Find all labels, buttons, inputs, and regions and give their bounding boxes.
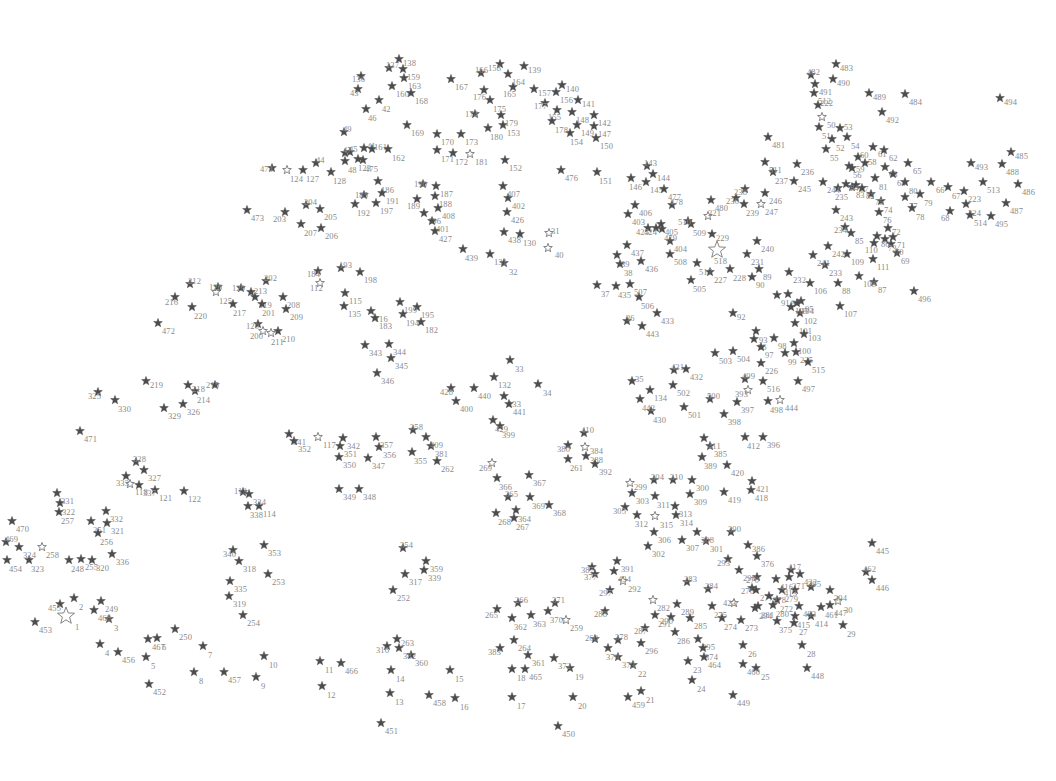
scatter-point-label-216: 216 xyxy=(165,298,178,307)
scatter-point-label-327: 327 xyxy=(148,474,161,483)
scatter-point-label-168: 168 xyxy=(415,97,428,106)
scatter-point-label-181: 181 xyxy=(475,158,488,167)
scatter-point-label-432: 432 xyxy=(690,373,703,382)
scatter-point-label-345: 345 xyxy=(395,362,408,371)
scatter-point-label-180: 180 xyxy=(490,133,503,142)
scatter-point-label-177: 177 xyxy=(534,102,547,111)
scatter-point-label-435: 435 xyxy=(618,291,631,300)
scatter-point-label-199: 199 xyxy=(404,306,417,315)
scatter-point-label-456: 456 xyxy=(122,656,135,665)
scatter-point-label-467: 467 xyxy=(152,643,165,652)
scatter-point-label-228: 228 xyxy=(733,274,746,283)
scatter-point-label-261: 261 xyxy=(570,464,583,473)
scatter-point-label-107: 107 xyxy=(844,310,857,319)
scatter-point-label-146: 146 xyxy=(629,183,642,192)
scatter-point-label-331: 331 xyxy=(61,497,74,506)
scatter-point-label-334: 334 xyxy=(253,498,266,507)
scatter-point-40 xyxy=(542,242,554,254)
scatter-point-label-407: 407 xyxy=(507,190,520,199)
scatter-point-label-10: 10 xyxy=(269,661,278,670)
scatter-point-label-256: 256 xyxy=(100,538,113,547)
scatter-point-label-392: 392 xyxy=(599,468,612,477)
scatter-point-label-318: 318 xyxy=(243,565,256,574)
scatter-point-label-500: 500 xyxy=(707,392,720,401)
scatter-point-label-325: 325 xyxy=(88,392,101,401)
scatter-point-label-19: 19 xyxy=(575,673,584,682)
scatter-point-label-478: 478 xyxy=(670,198,683,207)
scatter-point-label-158: 158 xyxy=(488,64,501,73)
scatter-point-label-411: 411 xyxy=(708,442,721,451)
scatter-point-label-506: 506 xyxy=(641,302,654,311)
scatter-point-label-165: 165 xyxy=(503,90,516,99)
scatter-point-label-330: 330 xyxy=(118,405,131,414)
scatter-point-label-112: 112 xyxy=(310,284,323,293)
scatter-point-label-209: 209 xyxy=(290,313,303,322)
scatter-point-label-436: 436 xyxy=(645,265,658,274)
scatter-point-label-390: 390 xyxy=(728,525,741,534)
scatter-point-label-202: 202 xyxy=(264,274,277,283)
scatter-point-label-192: 192 xyxy=(357,209,370,218)
scatter-point-label-428: 428 xyxy=(440,388,453,397)
scatter-point-label-468: 468 xyxy=(98,614,111,623)
scatter-point-label-438: 438 xyxy=(508,236,521,245)
scatter-point-label-443: 443 xyxy=(646,330,659,339)
scatter-point-label-179: 179 xyxy=(505,119,518,128)
scatter-point-label-193: 193 xyxy=(339,261,352,270)
scatter-point-label-440: 440 xyxy=(478,392,491,401)
scatter-point-label-29: 29 xyxy=(847,630,856,639)
scatter-point-label-71: 71 xyxy=(897,241,906,250)
scatter-point-label-502: 502 xyxy=(677,389,690,398)
scatter-point-label-143: 143 xyxy=(644,159,657,168)
scatter-point-label-349: 349 xyxy=(343,493,356,502)
scatter-point-label-217: 217 xyxy=(233,309,246,318)
scatter-point-label-267: 267 xyxy=(516,523,529,532)
scatter-point-label-31: 31 xyxy=(551,227,560,236)
scatter-point-label-350: 350 xyxy=(343,461,356,470)
scatter-point-label-220: 220 xyxy=(194,312,207,321)
scatter-point-label-7: 7 xyxy=(208,651,212,660)
scatter-point-label-26: 26 xyxy=(748,650,757,659)
scatter-point-label-132: 132 xyxy=(498,381,511,390)
scatter-point-label-36: 36 xyxy=(626,314,635,323)
scatter-point-label-337: 337 xyxy=(143,489,156,498)
scatter-point-label-315: 315 xyxy=(660,521,673,530)
scatter-point-label-355: 355 xyxy=(414,457,427,466)
scatter-point-label-11: 11 xyxy=(325,666,333,675)
scatter-point-label-5: 5 xyxy=(151,662,155,671)
scatter-point-label-425: 425 xyxy=(636,228,649,237)
scatter-point-label-129: 129 xyxy=(232,284,245,293)
scatter-point-label-288: 288 xyxy=(594,610,607,619)
scatter-point-label-232: 232 xyxy=(793,276,806,285)
scatter-point-label-108: 108 xyxy=(863,280,876,289)
scatter-point-label-353: 353 xyxy=(268,549,281,558)
scatter-point-label-291: 291 xyxy=(658,620,671,629)
scatter-point-label-52: 52 xyxy=(836,144,845,153)
scatter-point-label-115: 115 xyxy=(349,297,362,306)
scatter-point-label-81: 81 xyxy=(879,183,888,192)
scatter-point-label-469: 469 xyxy=(5,535,18,544)
scatter-point-label-462: 462 xyxy=(863,565,876,574)
scatter-point-label-370: 370 xyxy=(550,616,563,625)
scatter-point-label-379: 379 xyxy=(606,653,619,662)
scatter-point-label-234: 234 xyxy=(834,226,847,235)
scatter-point-label-442: 442 xyxy=(642,404,655,413)
scatter-point-label-309: 309 xyxy=(694,498,707,507)
scatter-point-label-174: 174 xyxy=(465,110,478,119)
scatter-point-label-231: 231 xyxy=(751,258,764,267)
scatter-point-label-18: 18 xyxy=(517,674,526,683)
scatter-point-label-444: 444 xyxy=(785,404,798,413)
scatter-point-label-398: 398 xyxy=(728,418,741,427)
scatter-point-label-227: 227 xyxy=(714,276,727,285)
scatter-point-label-92: 92 xyxy=(737,313,746,322)
scatter-point-label-247: 247 xyxy=(765,208,778,217)
scatter-point-label-85: 85 xyxy=(855,237,864,246)
scatter-point-label-460: 460 xyxy=(747,668,760,677)
scatter-point-label-268: 268 xyxy=(498,518,511,527)
scatter-point-label-347: 347 xyxy=(372,462,385,471)
scatter-point-label-135: 135 xyxy=(348,310,361,319)
scatter-point-label-49: 49 xyxy=(343,125,352,134)
scatter-point-label-487: 487 xyxy=(1010,207,1023,216)
scatter-point-label-54: 54 xyxy=(851,142,860,151)
scatter-point-label-402: 402 xyxy=(512,202,525,211)
scatter-point-label-9: 9 xyxy=(261,682,265,691)
